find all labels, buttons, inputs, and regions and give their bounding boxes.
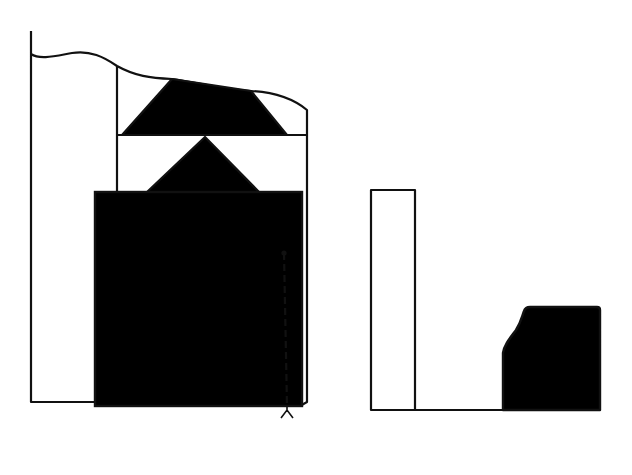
fig17-ws-block xyxy=(95,192,302,406)
fig17-stitch-end-mark-icon xyxy=(281,406,293,418)
figure-18 xyxy=(371,190,600,410)
figure-17 xyxy=(31,31,307,418)
fig18-rs-strip xyxy=(371,190,415,410)
fig18-rs-block xyxy=(503,307,600,410)
diagram-canvas xyxy=(0,0,632,475)
